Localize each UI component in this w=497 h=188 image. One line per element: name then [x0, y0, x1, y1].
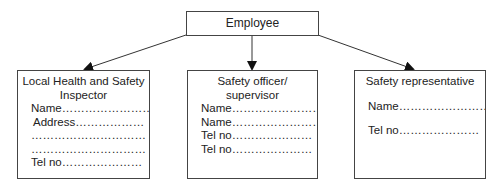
- arrow-to-left: [85, 35, 186, 69]
- name-field-2: Name……………………: [188, 116, 317, 130]
- arrow-to-right: [318, 35, 413, 69]
- tel-field-2: Tel no…………………: [188, 143, 317, 157]
- safety-representative-box: Safety representative Name…………………… Tel n…: [354, 70, 486, 179]
- safety-officer-supervisor-box: Safety officer/ supervisor Name…………………… …: [187, 70, 318, 179]
- tel-field: Tel no…………………: [188, 129, 317, 143]
- tel-field: Tel no…………………: [18, 156, 149, 170]
- box-title: Local Health and Safety: [18, 75, 149, 89]
- name-field: Name……………………: [355, 100, 485, 114]
- tel-field: Tel no…………………: [355, 124, 485, 138]
- local-health-safety-inspector-box: Local Health and Safety Inspector Name………: [17, 70, 150, 179]
- address-field-line2: …………………………: [18, 129, 149, 143]
- box-title: Safety representative: [355, 75, 485, 89]
- name-field: Name……………………: [18, 102, 149, 116]
- employee-box: Employee: [186, 11, 319, 36]
- address-field-line3: …………………………: [18, 143, 149, 157]
- name-field: Name……………………: [188, 102, 317, 116]
- box-title-line2: Inspector: [18, 89, 149, 103]
- box-title-line2: supervisor: [188, 89, 317, 103]
- employee-label: Employee: [226, 16, 279, 30]
- address-field: Address………………: [18, 116, 149, 130]
- box-title: Safety officer/: [188, 75, 317, 89]
